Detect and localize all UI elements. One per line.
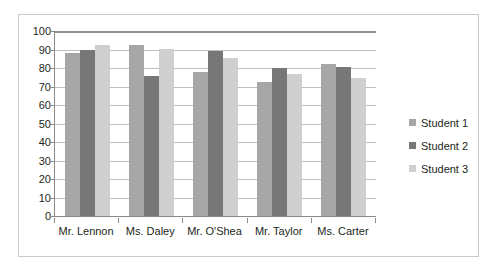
x-axis-tick-mark: [311, 218, 312, 223]
x-axis-tick-label: Ms. Daley: [126, 225, 175, 237]
legend-item[interactable]: Student 3: [409, 157, 494, 180]
bar: [80, 50, 95, 217]
legend-item[interactable]: Student 2: [409, 134, 494, 157]
bar: [208, 51, 223, 216]
bar-group: [312, 31, 376, 216]
x-axis-tick-label: Mr. Taylor: [255, 225, 302, 237]
legend-item[interactable]: Student 1: [409, 111, 494, 134]
bar: [351, 78, 366, 216]
y-axis-tick-label: 30: [23, 155, 51, 166]
x-axis-tick-label: Mr. O'Shea: [187, 225, 242, 237]
bar: [321, 64, 336, 216]
bar-group: [119, 31, 183, 216]
bar: [65, 53, 80, 216]
bar: [223, 58, 238, 216]
x-axis-tick-mark: [247, 218, 248, 223]
y-axis-tick-label: 20: [23, 174, 51, 185]
y-axis-tick-label: 50: [23, 118, 51, 129]
plot-area: [54, 31, 376, 217]
chart-container: 1009080706050403020100 Mr. LennonMs. Dal…: [18, 14, 479, 257]
legend-item-label: Student 1: [421, 117, 468, 129]
legend-swatch-icon: [409, 119, 416, 126]
x-axis-tick-mark: [182, 218, 183, 223]
x-axis-tick-label: Ms. Carter: [317, 225, 368, 237]
y-axis-tick-label: 90: [23, 44, 51, 55]
bar-group: [55, 31, 119, 216]
bar: [336, 67, 351, 216]
x-axis-tick-mark: [54, 218, 55, 223]
legend-swatch-icon: [409, 165, 416, 172]
y-axis-tick-label: 70: [23, 81, 51, 92]
bar-group: [248, 31, 312, 216]
bar: [159, 49, 174, 216]
y-axis-tick-label: 10: [23, 192, 51, 203]
chart-legend: Student 1Student 2Student 3: [409, 111, 494, 180]
x-axis-tick-mark: [375, 218, 376, 223]
y-axis: 1009080706050403020100: [19, 31, 51, 217]
x-axis-tick-mark: [118, 218, 119, 223]
legend-item-label: Student 2: [421, 140, 468, 152]
y-axis-tick-label: 40: [23, 137, 51, 148]
y-axis-tick-label: 80: [23, 63, 51, 74]
x-axis-tick-label: Mr. Lennon: [59, 225, 114, 237]
y-axis-tick-label: 100: [23, 26, 51, 37]
bar: [144, 76, 159, 216]
legend-item-label: Student 3: [421, 163, 468, 175]
bar-group: [183, 31, 247, 216]
y-axis-tick-label: 0: [23, 211, 51, 222]
bar: [193, 72, 208, 216]
bar: [129, 45, 144, 216]
bar: [95, 45, 110, 216]
legend-swatch-icon: [409, 142, 416, 149]
bar: [257, 82, 272, 216]
x-axis: Mr. LennonMs. DaleyMr. O'SheaMr. TaylorM…: [54, 218, 376, 240]
bar: [287, 74, 302, 216]
bar: [272, 68, 287, 216]
y-axis-tick-label: 60: [23, 100, 51, 111]
